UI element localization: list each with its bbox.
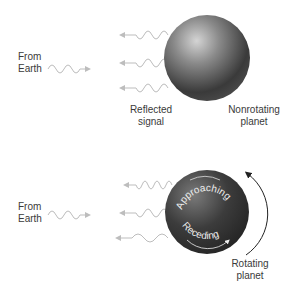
reflected-signal-label: Reflected signal <box>124 104 178 128</box>
reflected-waves-top <box>122 31 168 92</box>
label-line: planet <box>226 270 274 282</box>
label-line: Reflected <box>124 104 178 116</box>
nonrotating-planet <box>164 15 250 101</box>
incoming-wave-top <box>48 65 88 73</box>
rotating-planet-label: Rotating planet <box>226 258 274 282</box>
diagram-canvas: Approaching Receding <box>0 0 296 292</box>
from-earth-label-top: From Earth <box>18 51 42 75</box>
incoming-wave-bottom <box>48 211 88 219</box>
label-line: signal <box>124 116 178 128</box>
rotation-arrow <box>246 174 268 255</box>
label-line: Earth <box>18 63 42 75</box>
reflected-waves-bottom <box>118 181 172 242</box>
from-earth-label-bottom: From Earth <box>18 201 42 225</box>
label-line: Nonrotating <box>222 104 286 116</box>
label-line: planet <box>222 116 286 128</box>
label-line: From <box>18 51 42 63</box>
label-line: Earth <box>18 213 42 225</box>
label-line: From <box>18 201 42 213</box>
label-line: Rotating <box>226 258 274 270</box>
nonrotating-planet-label: Nonrotating planet <box>222 104 286 128</box>
